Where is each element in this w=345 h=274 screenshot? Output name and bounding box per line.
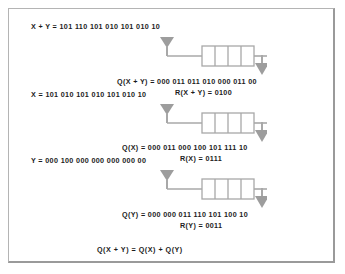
shift-register-svg-x (157, 102, 267, 144)
quotient-label-x: Q(X) = 000 011 000 100 101 111 10 (122, 143, 248, 152)
input-stream-label-x: X = 101 010 101 010 101 010 10 (31, 90, 146, 99)
figure-frame: X + Y = 101 110 101 010 101 010 10 (8, 8, 335, 263)
input-stream-label-sum: X + Y = 101 110 101 010 101 010 10 (31, 22, 160, 31)
shift-register-svg-sum (157, 35, 267, 77)
register-cells-y (202, 179, 254, 199)
register-cells-x (202, 113, 254, 133)
shift-register-svg-y (157, 168, 267, 210)
register-diagram-y (157, 168, 267, 210)
quotient-label-sum: Q(X + Y) = 000 011 011 010 000 011 00 (117, 77, 257, 86)
arrow-down-icon-output-sum (255, 55, 267, 75)
arrow-down-icon-input-sum (160, 37, 174, 56)
remainder-label-y: R(Y) = 0011 (180, 221, 222, 230)
arrow-down-icon-output-x (255, 122, 267, 142)
register-cells-sum (202, 46, 254, 66)
footer-equation: Q(X + Y) = Q(X) + Q(Y) (97, 245, 183, 254)
remainder-label-sum: R(X + Y) = 0100 (175, 88, 232, 97)
arrow-down-icon-output-y (255, 188, 267, 208)
arrow-down-icon-input-x (160, 104, 174, 123)
remainder-label-x: R(X) = 0111 (180, 154, 222, 163)
input-stream-label-y: Y = 000 100 000 000 000 000 00 (31, 156, 146, 165)
arrow-down-icon-input-y (160, 170, 174, 189)
register-diagram-sum (157, 35, 267, 77)
register-diagram-x (157, 102, 267, 144)
quotient-label-y: Q(Y) = 000 000 011 110 101 100 10 (122, 210, 248, 219)
